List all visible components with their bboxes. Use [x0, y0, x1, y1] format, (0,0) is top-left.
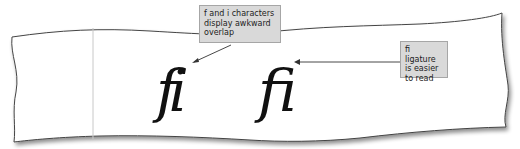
callout-overlap: f and i characters display awkward overl… — [199, 5, 281, 43]
diagram-canvas: fi ﬁ f and i characters display awkward … — [0, 0, 520, 149]
fi-separate-characters: fi — [156, 62, 178, 120]
fi-ligature: ﬁ — [258, 62, 297, 120]
callout-ligature: fi ligature is easier to read — [400, 41, 448, 78]
